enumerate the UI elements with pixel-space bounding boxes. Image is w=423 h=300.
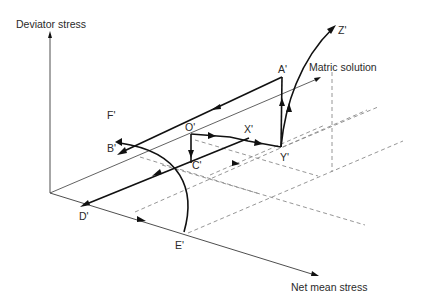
net-mean-stress-axis: [50, 193, 315, 275]
arrowhead-ox-icon: [208, 132, 216, 139]
point-label-c: C': [192, 160, 202, 171]
arrowhead-oc-icon: [188, 150, 194, 158]
deviator-axis-arrowhead-icon: [48, 31, 52, 38]
stress-paths: [80, 25, 336, 232]
matric-solution-label: Matric solution: [309, 62, 377, 73]
point-label-z: Z': [338, 25, 346, 36]
point-label-e: E': [175, 240, 184, 251]
path-o-x-y: [191, 134, 281, 147]
point-label-o: O': [185, 122, 195, 133]
arrowhead-f-icon: [115, 138, 122, 146]
arrowhead-xy-icon: [254, 139, 263, 146]
arrowhead-d-icon: [80, 200, 90, 207]
point-label-a: A': [278, 64, 287, 75]
dashed-grid: [135, 72, 403, 233]
arrowhead-net-mean-icon: [137, 216, 146, 222]
point-label-f: F': [107, 110, 115, 121]
point-label-y: Y': [280, 152, 289, 163]
point-label-d: D': [79, 211, 89, 222]
path-a-b: [122, 77, 282, 152]
path-e-f: [120, 143, 188, 232]
net-mean-stress-label: Net mean stress: [291, 282, 367, 293]
arrowhead-yz-mid-icon: [286, 103, 292, 112]
matric-solution-axis: [50, 79, 317, 193]
arrowhead-ab-mid-icon: [211, 104, 221, 110]
net-mean-axis-arrowhead-icon: [311, 271, 319, 276]
stress-space-diagram: [0, 0, 423, 300]
point-label-x: X': [244, 124, 253, 135]
arrowhead-grid-icon: [232, 160, 240, 166]
deviator-stress-label: Deviator stress: [16, 19, 86, 30]
point-label-b: B': [107, 143, 116, 154]
arrowhead-b-icon: [117, 147, 127, 155]
arrowhead-ya-icon: [279, 98, 285, 106]
matric-axis-arrowhead-icon: [314, 77, 321, 82]
arrowhead-cd-mid-icon: [152, 169, 162, 176]
